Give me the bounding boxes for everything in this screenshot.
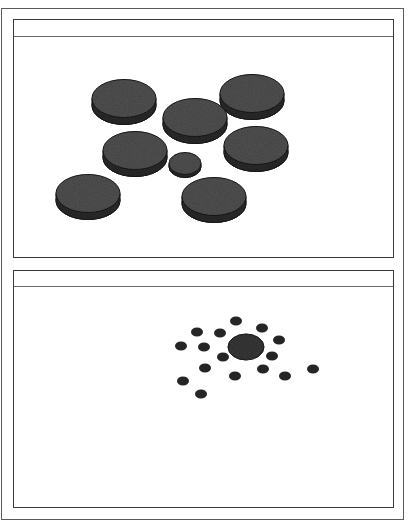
- large-disc: [220, 75, 284, 120]
- top-panel-discs-illustration: [14, 20, 395, 259]
- large-disc: [103, 132, 167, 177]
- small-dot: [307, 365, 319, 374]
- small-dot: [199, 364, 211, 373]
- small-dot: [273, 336, 285, 345]
- small-dot: [279, 372, 291, 381]
- small-dot: [191, 328, 203, 337]
- top-panel: [13, 19, 394, 258]
- small-disc: [169, 153, 201, 178]
- large-disc: [163, 99, 227, 144]
- large-disc: [182, 178, 246, 223]
- large-disc: [92, 80, 156, 125]
- small-dot: [214, 329, 226, 338]
- large-disc: [56, 175, 120, 220]
- center-disc: [228, 334, 264, 360]
- small-dot: [257, 365, 269, 374]
- bottom-panel-dots-illustration: [14, 271, 395, 509]
- small-dot: [256, 324, 268, 333]
- bottom-panel: [13, 270, 394, 508]
- small-dot: [266, 352, 278, 361]
- small-dot: [229, 372, 241, 381]
- small-dot: [230, 317, 242, 326]
- small-dot: [177, 377, 189, 386]
- small-dot: [195, 390, 207, 399]
- large-disc: [224, 127, 288, 172]
- small-dot: [198, 343, 210, 352]
- small-dot: [175, 342, 187, 351]
- small-dot: [217, 353, 229, 362]
